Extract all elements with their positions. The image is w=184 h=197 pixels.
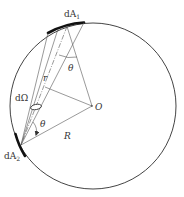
label-dA2: dA2: [4, 151, 20, 162]
label-dOmega: dΩ: [15, 93, 28, 103]
solid-angle-ellipse: [30, 103, 42, 110]
theta-arc-top: [59, 55, 77, 58]
label-center-O: O: [95, 102, 103, 112]
label-dA1: dA1: [64, 9, 80, 20]
perpendicular-to-O: [45, 87, 92, 106]
cone-right-edge: [21, 23, 84, 146]
label-theta-bottom: θ: [40, 119, 46, 129]
sphere-view-factor-diagram: dA1 dA2 dΩ r θ θ O R: [0, 0, 184, 197]
label-radius-R: R: [63, 131, 71, 141]
label-theta-top: θ: [68, 63, 74, 73]
theta-arc-bottom: [33, 122, 37, 135]
label-r: r: [43, 73, 48, 83]
center-point: [91, 105, 93, 107]
